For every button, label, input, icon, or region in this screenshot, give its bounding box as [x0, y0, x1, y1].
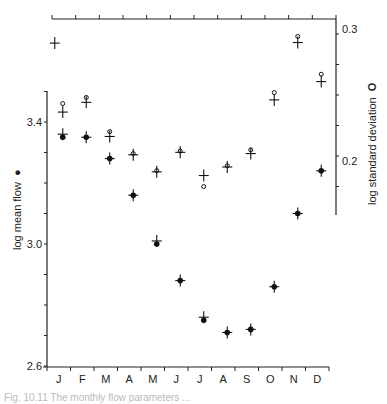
- month-label: O: [266, 373, 275, 385]
- std-dev-circle: [202, 185, 206, 189]
- month-label: A: [220, 373, 228, 385]
- left-axis-tick-label: 3.4: [27, 116, 42, 128]
- month-label: S: [243, 373, 250, 385]
- axis-labels: log mean flow ● log standard deviation O: [11, 82, 378, 250]
- figure-caption: Fig. 10.11 The monthly flow parameters .…: [4, 392, 190, 403]
- month-label: N: [290, 373, 298, 385]
- month-label: A: [126, 373, 134, 385]
- month-label: F: [79, 373, 86, 385]
- std-dev-circle: [61, 102, 65, 106]
- right-axis-tick-label: 0.2: [342, 155, 357, 167]
- axes: 2.63.03.4JFMAMJJASOND0.20.3: [27, 15, 358, 385]
- month-label: J: [197, 373, 203, 385]
- data-points: [50, 34, 327, 338]
- right-axis-tick-label: 0.3: [342, 23, 357, 35]
- left-axis-tick-label: 3.0: [27, 238, 42, 250]
- right-axis-title: log standard deviation O: [366, 82, 378, 205]
- month-label: J: [56, 373, 62, 385]
- month-label: J: [174, 373, 180, 385]
- month-label: D: [313, 373, 321, 385]
- left-axis-tick-label: 2.6: [27, 360, 42, 372]
- left-axis-title: log mean flow ●: [11, 169, 23, 250]
- month-label: M: [101, 373, 110, 385]
- chart-canvas: 2.63.03.4JFMAMJJASOND0.20.3 log mean flo…: [0, 0, 387, 404]
- month-label: M: [148, 373, 157, 385]
